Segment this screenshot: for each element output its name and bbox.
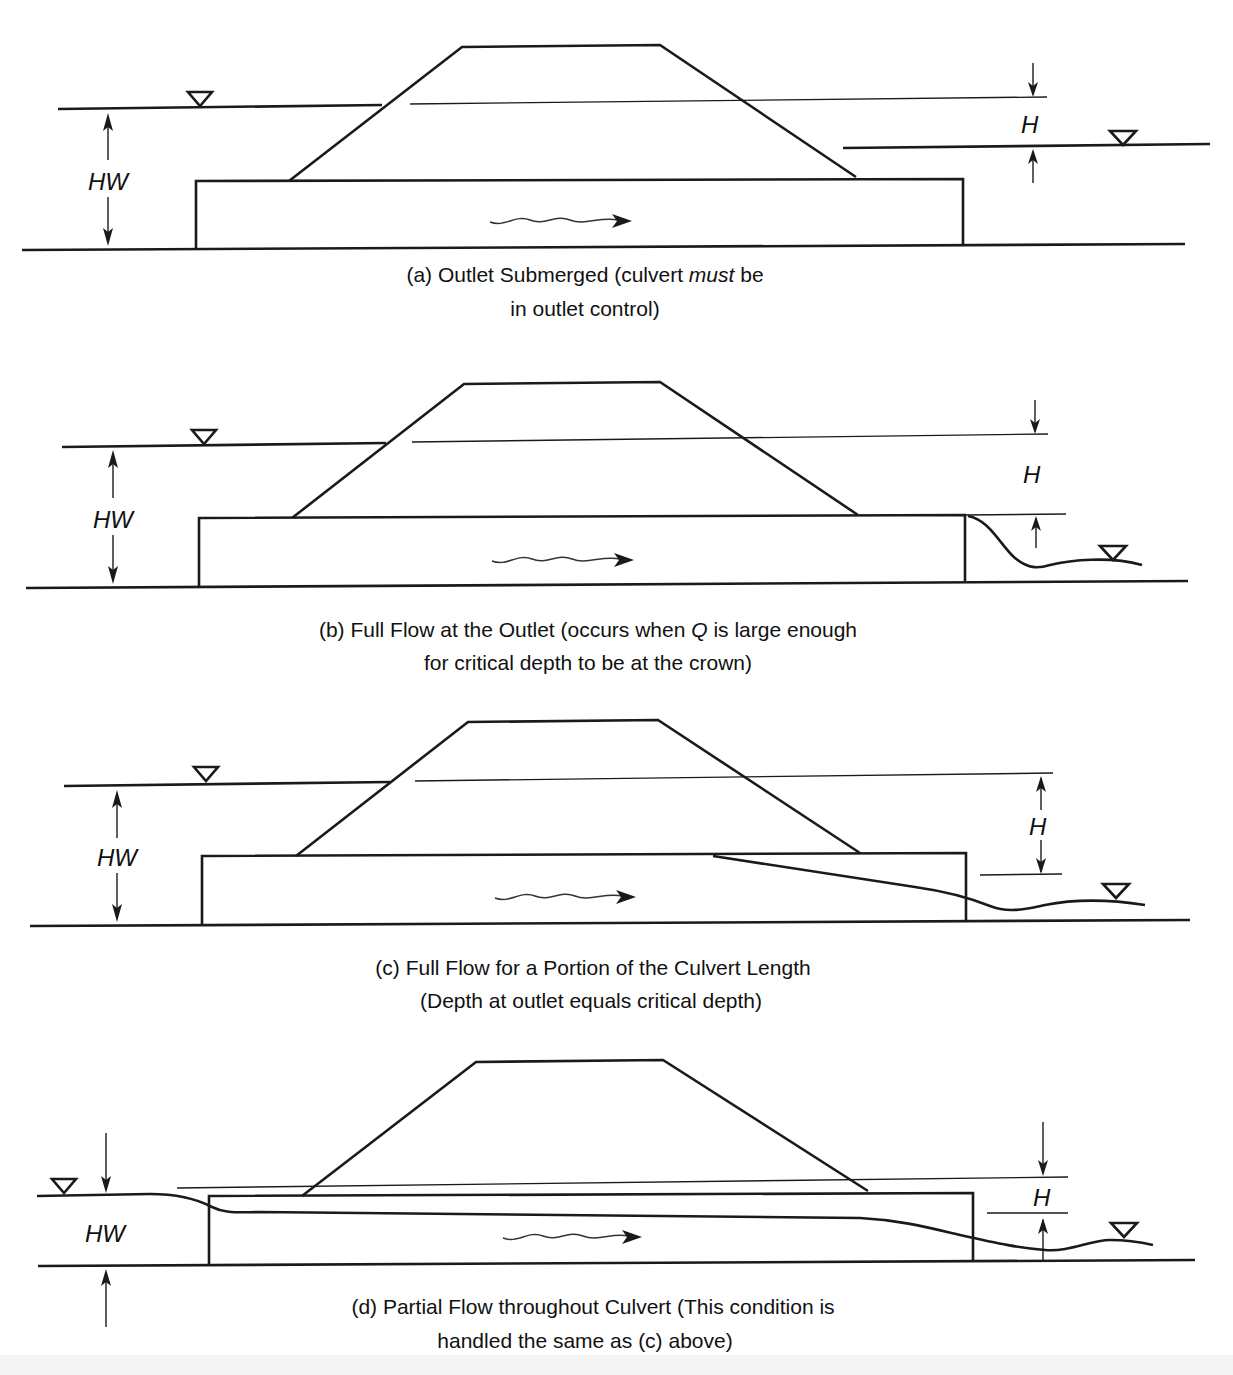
critical-depth-line xyxy=(980,874,1062,875)
hydraulic-grade-line xyxy=(713,856,1145,910)
energy-line xyxy=(412,434,1048,442)
caption-d-line1: (d) Partial Flow throughout Culvert (Thi… xyxy=(351,1295,834,1318)
panel-a: HW H (a) Outlet Submerged (culvert must … xyxy=(22,45,1210,320)
h-label: H xyxy=(1021,111,1039,138)
water-surface-symbol-icon xyxy=(1110,131,1136,145)
flow-arrow-icon xyxy=(492,557,620,562)
h-label: H xyxy=(1023,461,1041,488)
embankment xyxy=(296,720,860,856)
panel-d: HW H (d) Partial Flow throughout Culvert… xyxy=(37,1060,1195,1352)
water-surface-symbol-icon xyxy=(1100,546,1126,560)
caption-c-line2: (Depth at outlet equals critical depth) xyxy=(420,989,762,1012)
caption-d-line2: handled the same as (c) above) xyxy=(437,1329,732,1352)
caption-b-line1: (b) Full Flow at the Outlet (occurs when… xyxy=(319,618,857,641)
water-surface-symbol-icon xyxy=(1111,1223,1137,1237)
h-label: H xyxy=(1033,1184,1051,1211)
caption-a-line2: in outlet control) xyxy=(510,297,659,320)
energy-line xyxy=(177,1177,1068,1188)
channel-bed xyxy=(30,920,1190,926)
embankment xyxy=(292,382,858,518)
hw-label: HW xyxy=(85,1220,127,1247)
water-surface-profile xyxy=(37,1194,1153,1250)
culvert-barrel xyxy=(202,853,966,926)
h-label: H xyxy=(1029,813,1047,840)
panel-c: HW H (c) Full Flow for a Portion of the … xyxy=(30,720,1190,1012)
water-surface-symbol-icon xyxy=(52,1179,76,1193)
hw-label: HW xyxy=(93,506,135,533)
caption-a-line1: (a) Outlet Submerged (culvert must be xyxy=(406,263,763,286)
embankment xyxy=(289,45,856,181)
culvert-flow-diagram: HW H (a) Outlet Submerged (culvert must … xyxy=(0,0,1233,1375)
hw-label: HW xyxy=(97,844,139,871)
culvert-barrel xyxy=(209,1193,973,1266)
flow-arrow-icon xyxy=(490,218,618,223)
energy-line xyxy=(410,97,1047,104)
headwater-surface xyxy=(64,782,390,786)
tailwater-surface xyxy=(843,144,1210,148)
energy-line xyxy=(415,773,1053,781)
outlet-water-profile xyxy=(968,516,1142,567)
water-surface-symbol-icon xyxy=(1103,884,1129,898)
flow-arrow-icon xyxy=(503,1234,628,1239)
water-surface-symbol-icon xyxy=(194,767,218,781)
flow-arrow-icon xyxy=(495,894,622,899)
panel-b: HW H (b) Full Flow at the Outlet (occurs… xyxy=(26,382,1188,674)
headwater-surface xyxy=(62,443,386,447)
hw-label: HW xyxy=(88,168,130,195)
caption-b-line2: for critical depth to be at the crown) xyxy=(424,651,752,674)
water-surface-symbol-icon xyxy=(192,430,216,444)
culvert-barrel xyxy=(199,515,965,588)
water-surface-symbol-icon xyxy=(188,92,212,106)
crown-reference-line xyxy=(965,514,1066,515)
culvert-barrel xyxy=(196,179,963,250)
channel-bed xyxy=(38,1260,1195,1266)
headwater-surface xyxy=(58,105,382,109)
page-bottom-edge xyxy=(0,1355,1233,1375)
caption-c-line1: (c) Full Flow for a Portion of the Culve… xyxy=(375,956,810,979)
embankment xyxy=(302,1060,868,1196)
